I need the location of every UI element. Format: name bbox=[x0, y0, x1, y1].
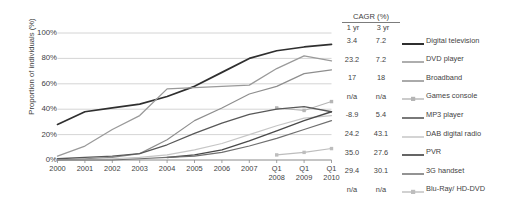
legend-series-label: Games console bbox=[426, 91, 477, 100]
legend-cagr-1yr-value: -8.9 bbox=[338, 110, 366, 119]
legend-row[interactable]: n/an/aGames console bbox=[336, 92, 508, 109]
legend-cagr-3yr-value: 43.1 bbox=[368, 129, 394, 138]
legend-series-label: Blu-Ray/ HD-DVD bbox=[426, 184, 485, 193]
series-line bbox=[58, 56, 332, 156]
legend-cagr-1yr-value: 24.2 bbox=[338, 129, 366, 138]
legend-cagr-1yr-value: 3.4 bbox=[338, 36, 366, 45]
chart-root: Proportion of individuals (%) 0%20%40%60… bbox=[0, 0, 508, 201]
legend-row[interactable]: 3.47.2Digital television bbox=[336, 36, 508, 53]
legend-cagr-3yr-value: 18 bbox=[368, 73, 394, 82]
legend-series-label: PVR bbox=[426, 147, 441, 156]
series-line bbox=[58, 44, 332, 124]
legend-row[interactable]: 23.27.2DVD player bbox=[336, 55, 508, 72]
legend-swatch-icon bbox=[402, 170, 424, 178]
legend-swatch-icon bbox=[402, 77, 424, 85]
legend-cagr-1yr-value: n/a bbox=[338, 185, 366, 194]
legend-cagr-3yr-value: 7.2 bbox=[368, 55, 394, 64]
legend-cagr-3yr-value: n/a bbox=[368, 185, 394, 194]
legend-cagr-1yr-value: 23.2 bbox=[338, 55, 366, 64]
legend-series-label: DVD player bbox=[426, 54, 464, 63]
legend: CAGR (%) 1 yr 3 yr 3.47.2Digital televis… bbox=[336, 12, 508, 197]
legend-col-3yr: 3 yr bbox=[370, 23, 396, 32]
legend-swatch-icon bbox=[402, 188, 424, 196]
series-marker bbox=[275, 153, 278, 156]
legend-swatch-icon bbox=[402, 114, 424, 122]
legend-cagr-3yr-value: 30.1 bbox=[368, 166, 394, 175]
legend-row[interactable]: 29.430.13G handset bbox=[336, 166, 508, 183]
series-marker bbox=[330, 147, 333, 150]
series-line bbox=[58, 107, 332, 159]
legend-series-label: 3G handset bbox=[426, 166, 464, 175]
legend-row[interactable]: 1718Broadband bbox=[336, 73, 508, 90]
legend-cagr-3yr-value: n/a bbox=[368, 92, 394, 101]
legend-row[interactable]: -8.95.4MP3 player bbox=[336, 110, 508, 127]
series-lines bbox=[58, 44, 334, 160]
legend-series-label: Digital television bbox=[426, 36, 479, 45]
legend-col-1yr: 1 yr bbox=[340, 23, 366, 32]
legend-swatch-icon bbox=[402, 151, 424, 159]
series-marker bbox=[302, 109, 305, 112]
legend-row[interactable]: n/an/aBlu-Ray/ HD-DVD bbox=[336, 185, 508, 201]
legend-cagr-1yr-value: 35.0 bbox=[338, 148, 366, 157]
legend-cagr-1yr-value: n/a bbox=[338, 92, 366, 101]
legend-swatch-icon bbox=[402, 133, 424, 141]
legend-swatch-icon bbox=[402, 95, 424, 103]
legend-cagr-header: CAGR (%) bbox=[342, 12, 400, 23]
gridlines bbox=[58, 33, 332, 160]
legend-series-label: Broadband bbox=[426, 73, 462, 82]
legend-swatch-icon bbox=[402, 58, 424, 66]
legend-series-label: MP3 player bbox=[426, 110, 463, 119]
legend-series-label: DAB digital radio bbox=[426, 129, 481, 138]
legend-row[interactable]: 24.243.1DAB digital radio bbox=[336, 129, 508, 146]
legend-swatch-icon bbox=[402, 40, 424, 48]
legend-cagr-1yr-value: 29.4 bbox=[338, 166, 366, 175]
legend-cagr-1yr-value: 17 bbox=[338, 73, 366, 82]
series-marker bbox=[302, 151, 305, 154]
series-marker bbox=[330, 100, 333, 103]
legend-cagr-3yr-value: 7.2 bbox=[368, 36, 394, 45]
series-line bbox=[58, 70, 332, 160]
legend-row[interactable]: 35.027.6PVR bbox=[336, 148, 508, 165]
legend-cagr-3yr-value: 27.6 bbox=[368, 148, 394, 157]
legend-cagr-3yr-value: 5.4 bbox=[368, 110, 394, 119]
